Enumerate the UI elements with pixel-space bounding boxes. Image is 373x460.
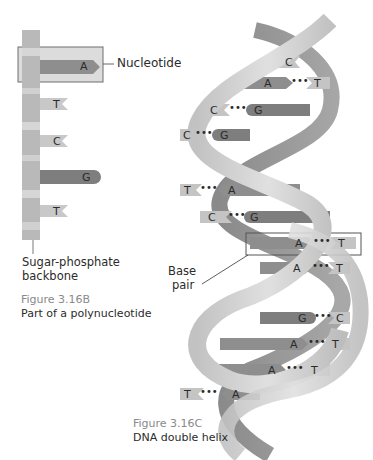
bp6-right: G	[250, 211, 259, 224]
bp9-left: G	[298, 312, 307, 325]
bp8-left: A	[293, 262, 301, 275]
bp3-hbond: •••	[229, 101, 247, 114]
bp1-right: C	[285, 56, 293, 69]
bp8-right: T	[336, 262, 343, 275]
bp5-left: T	[184, 184, 191, 197]
bp11-left: A	[268, 364, 276, 377]
bp11-right: T	[311, 364, 318, 377]
base-label-a: A	[80, 60, 88, 73]
bp7-right: T	[338, 237, 345, 250]
bp2-hbond: •••	[291, 74, 309, 87]
bp11-hbond: •••	[286, 361, 304, 374]
bp4-left: C	[183, 129, 191, 142]
bp12-right: A	[232, 388, 240, 401]
bp4-hbond: •••	[195, 126, 213, 139]
backbone-callout-line2: backbone	[22, 270, 78, 283]
bp5-right: A	[228, 184, 236, 197]
double-helix-diagram: C A ••• T C ••• G C ••• G T ••• A C ••• …	[180, 0, 373, 460]
figure-c-caption: DNA double helix	[133, 431, 228, 444]
bp6-left: C	[208, 211, 216, 224]
figure-c-number: Figure 3.16C	[133, 417, 202, 430]
bp3-right: G	[254, 104, 263, 117]
bp9-hbond: •••	[314, 309, 332, 322]
bp6-hbond: •••	[228, 208, 246, 221]
nucleotide-callout: Nucleotide	[117, 57, 181, 70]
bp9-right: C	[336, 312, 344, 325]
bp10-right: T	[332, 338, 339, 351]
base-label-t: T	[53, 98, 60, 111]
bp10-left: A	[290, 338, 298, 351]
bp4-right: G	[220, 129, 229, 142]
figure-b-number: Figure 3.16B	[21, 293, 90, 306]
bp2-left: A	[264, 77, 272, 90]
bp7-left: A	[295, 237, 303, 250]
bp2-right: T	[314, 77, 321, 90]
bp10-hbond: •••	[308, 335, 326, 348]
figure-b-caption: Part of a polynucleotide	[21, 307, 152, 320]
bp7-hbond: •••	[313, 234, 331, 247]
bp8-hbond: •••	[312, 259, 330, 272]
bp12-hbond: •••	[200, 385, 218, 398]
backbone-callout-line1: Sugar-phosphate	[22, 256, 120, 269]
base-label-c: C	[53, 135, 61, 148]
base-pair-callout-line1: Base	[168, 265, 196, 278]
bp5-hbond: •••	[200, 181, 218, 194]
base-label-g: G	[82, 171, 91, 184]
bp12-left: T	[184, 388, 191, 401]
bp3-left: C	[210, 104, 218, 117]
base-pair-callout-line2: pair	[172, 279, 194, 292]
base-label-t2: T	[53, 205, 60, 218]
